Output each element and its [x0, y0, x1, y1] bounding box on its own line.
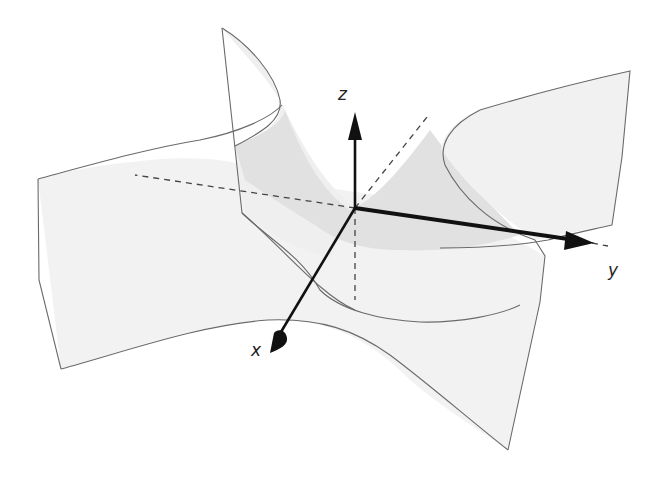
saddle-diagram: z y x: [0, 0, 659, 485]
y-axis-label: y: [607, 260, 619, 280]
y-arrowhead-icon: [564, 231, 594, 250]
z-axis-label: z: [337, 84, 348, 104]
z-arrowhead-icon: [348, 112, 362, 140]
x-axis-label: x: [250, 340, 262, 360]
x-arrowhead-icon: [270, 330, 287, 353]
dashed-y-extension: [592, 243, 608, 246]
